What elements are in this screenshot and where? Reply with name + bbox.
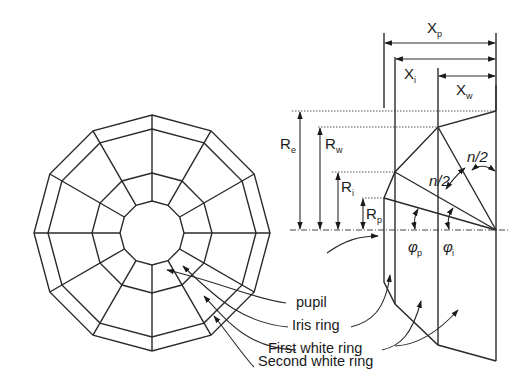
- svg-text:w: w: [335, 145, 343, 155]
- side-profile: [290, 33, 508, 361]
- ri-label: R i: [341, 178, 354, 198]
- svg-text:R: R: [280, 135, 291, 152]
- svg-text:R: R: [341, 178, 352, 195]
- pupil-outline: [120, 201, 184, 265]
- eye-geometry-diagram: pupil Iris ring First white ring Second …: [0, 0, 525, 370]
- svg-text:p: p: [437, 29, 442, 39]
- pupil-profile-arrow: [327, 236, 378, 253]
- radial-spoke: [168, 131, 211, 206]
- svg-text:i: i: [452, 248, 454, 258]
- svg-text:p: p: [417, 248, 422, 258]
- half-angle-label-1: n/2: [429, 172, 451, 189]
- pupil-leader-arrow: [167, 270, 286, 303]
- svg-text:R: R: [366, 205, 377, 222]
- svg-text:i: i: [352, 188, 354, 198]
- radial-spoke: [180, 174, 255, 217]
- phi-i-arc: [448, 208, 453, 229]
- svg-text:X: X: [456, 81, 466, 98]
- xw-label: X w: [456, 81, 473, 101]
- polygon-eye-mesh: [34, 115, 270, 351]
- svg-text:X: X: [404, 65, 414, 82]
- radial-spoke: [93, 131, 136, 206]
- iris-ring-leader-arrow: [183, 266, 288, 327]
- xi-label: X i: [404, 65, 416, 85]
- second-white-ring-leader-arrow: [214, 316, 254, 367]
- upper-profile-outline: [384, 111, 496, 230]
- pupil-label: pupil: [296, 294, 327, 310]
- svg-text:w: w: [465, 91, 473, 101]
- svg-text:R: R: [325, 135, 336, 152]
- rw-label: R w: [325, 135, 343, 155]
- phi-i-label: φ i: [443, 238, 454, 258]
- radial-spoke: [50, 249, 125, 292]
- svg-text:i: i: [414, 75, 416, 85]
- radial-spoke: [50, 174, 125, 217]
- second-white-profile-arrow: [395, 310, 458, 346]
- phi-p-label: φ p: [408, 238, 422, 258]
- half-angle-label-2: n/2: [467, 148, 489, 165]
- radial-spoke: [180, 249, 255, 292]
- xp-label: X p: [427, 19, 442, 39]
- half-angle-arc-2: [472, 166, 495, 171]
- iris-ring-label: Iris ring: [292, 317, 340, 333]
- radial-spoke: [93, 261, 136, 336]
- phi-p-arc: [414, 209, 418, 229]
- first-white-profile-arrow: [382, 301, 421, 350]
- ray-to-pupil: [384, 198, 496, 230]
- second-white-ring-label: Second white ring: [258, 353, 373, 369]
- svg-text:p: p: [377, 215, 382, 225]
- rp-label: R p: [366, 205, 382, 225]
- svg-text:e: e: [291, 145, 296, 155]
- re-label: R e: [280, 135, 296, 155]
- svg-text:X: X: [427, 19, 437, 36]
